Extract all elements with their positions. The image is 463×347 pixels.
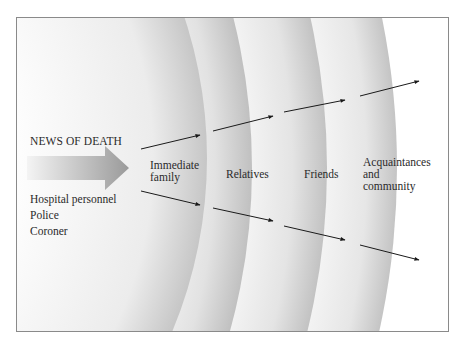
figure-caption-cropped bbox=[14, 339, 454, 347]
circle-label-immediate-line1: Immediate bbox=[150, 159, 199, 171]
circle-label-friends: Friends bbox=[304, 168, 339, 180]
circle-label-immediate-line2: family bbox=[150, 171, 180, 183]
diagram-frame: NEWS OF DEATH Hospital personnel Police … bbox=[16, 17, 449, 332]
circle-label-relatives: Relatives bbox=[226, 168, 269, 180]
circle-label-acquaintances-line3: community bbox=[363, 180, 415, 192]
source-police: Police bbox=[30, 209, 59, 221]
source-hospital-personnel: Hospital personnel bbox=[30, 193, 117, 205]
circle-label-acquaintances-line1: Acquaintances bbox=[363, 156, 431, 168]
circle-label-acquaintances-line2: and bbox=[363, 168, 380, 180]
source-coroner: Coroner bbox=[30, 225, 68, 237]
news-of-death-label: NEWS OF DEATH bbox=[30, 135, 122, 147]
